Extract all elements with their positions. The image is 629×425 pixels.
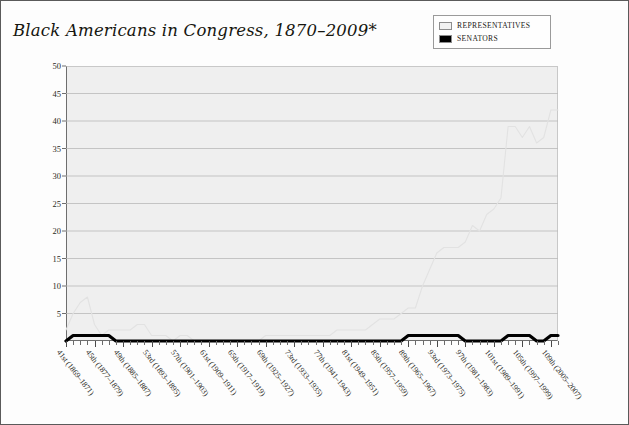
chart-legend: Representatives Senators bbox=[433, 15, 551, 49]
x-tick-mark bbox=[266, 341, 267, 347]
x-tick-mark bbox=[544, 341, 545, 345]
x-axis: 41st (1869–1871)45th (1877–1879)49th (18… bbox=[66, 348, 626, 425]
legend-label-representatives: Representatives bbox=[457, 21, 530, 30]
x-tick-mark bbox=[358, 341, 359, 345]
x-tick-mark bbox=[244, 341, 245, 345]
x-tick-mark bbox=[444, 341, 445, 345]
x-tick-mark bbox=[430, 341, 431, 345]
data-series bbox=[66, 66, 558, 341]
legend-item-senators[interactable]: Senators bbox=[439, 33, 545, 44]
x-tick-mark bbox=[80, 341, 81, 345]
x-tick-mark bbox=[301, 341, 302, 345]
x-tick-mark bbox=[351, 341, 352, 347]
x-tick-mark bbox=[323, 341, 324, 347]
x-tick-mark bbox=[501, 341, 502, 345]
legend-item-representatives[interactable]: Representatives bbox=[439, 20, 545, 31]
y-tick-label: 35 bbox=[53, 144, 62, 154]
x-tick-mark bbox=[73, 341, 74, 345]
x-tick-mark bbox=[166, 341, 167, 345]
x-tick-mark bbox=[316, 341, 317, 345]
x-tick-mark bbox=[508, 341, 509, 345]
x-tick-mark bbox=[280, 341, 281, 345]
chart-figure: Black Americans in Congress, 1870–2009* … bbox=[0, 0, 629, 425]
x-tick-mark bbox=[365, 341, 366, 345]
x-tick-mark bbox=[558, 341, 559, 345]
x-tick-mark bbox=[401, 341, 402, 345]
y-axis: 5045403530252015105 bbox=[37, 66, 61, 341]
x-tick-mark bbox=[102, 341, 103, 345]
x-tick-mark bbox=[387, 341, 388, 345]
x-tick-mark bbox=[109, 341, 110, 345]
legend-label-senators: Senators bbox=[457, 34, 498, 43]
y-tick-label: 30 bbox=[53, 171, 62, 181]
x-tick-mark bbox=[308, 341, 309, 345]
x-tick-mark bbox=[522, 341, 523, 347]
x-tick-mark bbox=[394, 341, 395, 345]
x-tick-mark bbox=[123, 341, 124, 347]
x-tick-mark bbox=[451, 341, 452, 345]
x-tick-mark bbox=[515, 341, 516, 345]
legend-swatch-representatives bbox=[439, 22, 452, 30]
x-tick-mark bbox=[415, 341, 416, 345]
x-tick-mark bbox=[423, 341, 424, 345]
x-tick-mark bbox=[529, 341, 530, 345]
page-title: Black Americans in Congress, 1870–2009* bbox=[13, 21, 377, 40]
x-tick-mark bbox=[209, 341, 210, 347]
x-tick-mark bbox=[251, 341, 252, 345]
x-tick-mark bbox=[180, 341, 181, 347]
y-tick-label: 40 bbox=[53, 116, 62, 126]
x-tick-mark bbox=[201, 341, 202, 345]
x-tick-mark bbox=[259, 341, 260, 345]
x-tick-mark bbox=[130, 341, 131, 345]
x-axis-ticks bbox=[66, 341, 558, 348]
x-tick-mark bbox=[437, 341, 438, 347]
x-tick-mark bbox=[344, 341, 345, 345]
x-tick-mark bbox=[230, 341, 231, 345]
x-tick-mark bbox=[380, 341, 381, 347]
y-tick-label: 10 bbox=[53, 281, 62, 291]
x-tick-mark bbox=[95, 341, 96, 347]
x-tick-mark bbox=[116, 341, 117, 345]
x-tick-mark bbox=[287, 341, 288, 345]
x-tick-mark bbox=[137, 341, 138, 345]
x-tick-mark bbox=[465, 341, 466, 347]
y-tick-label: 45 bbox=[53, 89, 62, 99]
x-tick-mark bbox=[237, 341, 238, 347]
y-tick-label: 15 bbox=[53, 254, 62, 264]
plot-region bbox=[66, 66, 558, 341]
x-tick-mark bbox=[294, 341, 295, 347]
x-tick-mark bbox=[173, 341, 174, 345]
x-tick-mark bbox=[152, 341, 153, 347]
y-tick-label: 50 bbox=[53, 61, 62, 71]
x-tick-mark bbox=[216, 341, 217, 345]
x-tick-mark bbox=[408, 341, 409, 347]
x-tick-mark bbox=[144, 341, 145, 345]
y-tick-label: 25 bbox=[53, 199, 62, 209]
x-tick-mark bbox=[194, 341, 195, 345]
x-tick-mark bbox=[337, 341, 338, 345]
series-line-representatives bbox=[66, 110, 558, 341]
legend-swatch-senators bbox=[439, 35, 452, 43]
y-tick-label: 5 bbox=[57, 309, 61, 319]
x-tick-mark bbox=[223, 341, 224, 345]
x-tick-mark bbox=[494, 341, 495, 347]
x-tick-mark bbox=[330, 341, 331, 345]
x-tick-mark bbox=[373, 341, 374, 345]
x-tick-mark bbox=[273, 341, 274, 345]
x-tick-mark bbox=[458, 341, 459, 345]
x-tick-mark bbox=[87, 341, 88, 345]
y-tick-label: 20 bbox=[53, 226, 62, 236]
x-tick-mark bbox=[472, 341, 473, 345]
x-tick-mark bbox=[551, 341, 552, 347]
x-tick-mark bbox=[480, 341, 481, 345]
x-tick-mark bbox=[159, 341, 160, 345]
x-tick-mark bbox=[537, 341, 538, 345]
x-tick-mark bbox=[187, 341, 188, 345]
x-tick-mark bbox=[487, 341, 488, 345]
x-tick-mark bbox=[66, 341, 67, 347]
